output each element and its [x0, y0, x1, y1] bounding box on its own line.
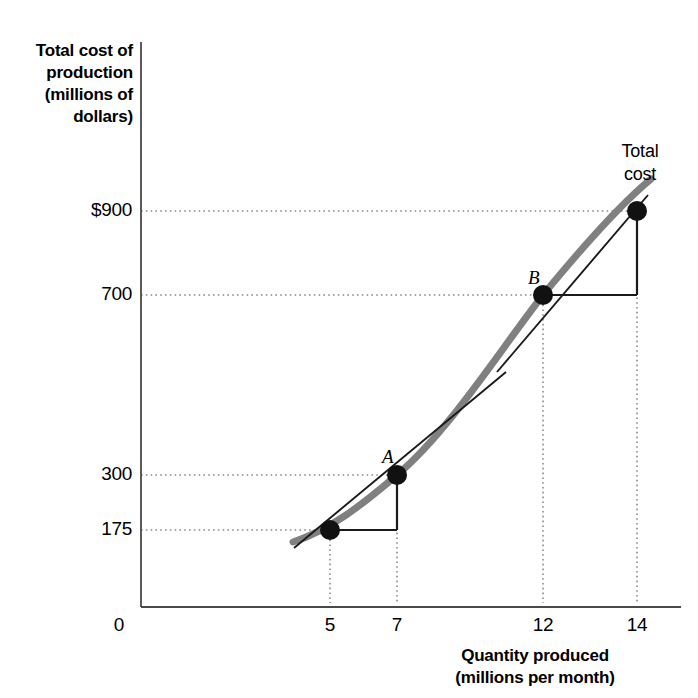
curve-label-total-cost: Total cost [592, 140, 688, 186]
total-cost-chart: Total cost of production (millions of do… [0, 0, 698, 698]
point-label-a: A [382, 446, 394, 468]
y-tick-label-300: 300 [22, 463, 132, 485]
y-tick-label-175: 175 [22, 518, 132, 540]
data-point-14-900[interactable] [627, 201, 647, 221]
origin-label: 0 [99, 614, 139, 636]
x-tick-label-12: 12 [523, 614, 563, 636]
y-axis-title: Total cost of production (millions of do… [8, 40, 133, 128]
x-tick-label-14: 14 [617, 614, 657, 636]
tangent-line-b [497, 195, 648, 372]
x-axis-title: Quantity produced (millions per month) [380, 645, 690, 689]
x-tick-label-5: 5 [310, 614, 350, 636]
x-tick-label-7: 7 [377, 614, 417, 636]
data-point-a[interactable] [387, 465, 407, 485]
data-point-5-175[interactable] [320, 520, 340, 540]
y-tick-label-900: $900 [22, 199, 132, 221]
total-cost-curve [293, 179, 651, 542]
point-label-b: B [528, 267, 540, 289]
y-tick-label-700: 700 [22, 283, 132, 305]
